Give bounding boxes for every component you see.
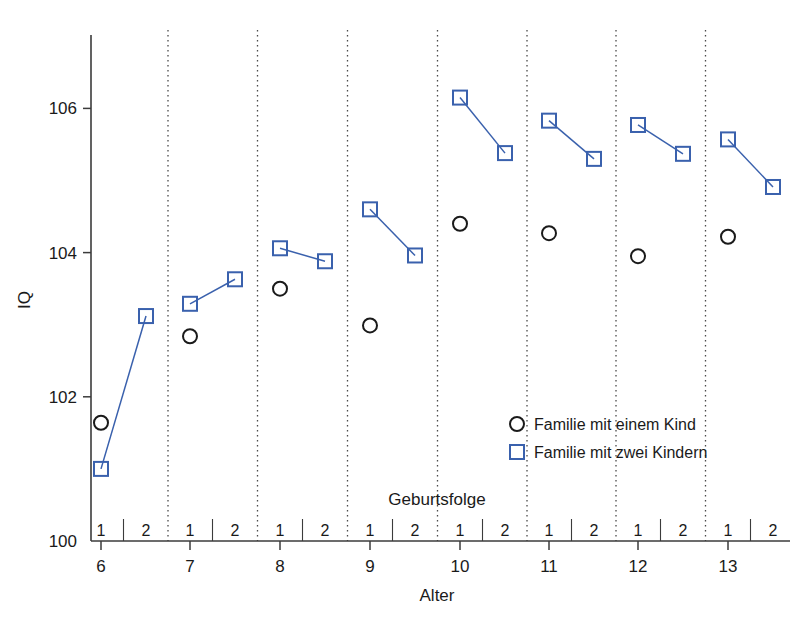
data-point-circle: [183, 329, 197, 343]
y-axis-tick-label: 100: [49, 532, 77, 551]
birth-order-label: 1: [456, 522, 465, 539]
legend-marker-square: [510, 445, 524, 459]
data-point-circle: [94, 416, 108, 430]
y-axis-tick-label: 106: [49, 99, 77, 118]
birth-order-label: 2: [321, 522, 330, 539]
data-point-circle: [542, 226, 556, 240]
birth-order-label: 1: [186, 522, 195, 539]
birth-order-label: 1: [366, 522, 375, 539]
data-point-circle: [631, 249, 645, 263]
birth-order-label: 2: [769, 522, 778, 539]
series-connector-line: [460, 98, 505, 154]
group-axis-title: Geburtsfolge: [388, 490, 485, 509]
data-point-circle: [273, 282, 287, 296]
x-axis-tick-label: 8: [275, 557, 284, 576]
x-axis-tick-label: 7: [185, 557, 194, 576]
birth-order-label: 2: [590, 522, 599, 539]
legend-label: Familie mit zwei Kindern: [534, 444, 707, 461]
birth-order-label: 1: [724, 522, 733, 539]
x-axis-tick-label: 11: [540, 557, 558, 576]
birth-order-label: 1: [97, 522, 106, 539]
birth-order-label: 1: [634, 522, 643, 539]
iq-by-age-and-birth-order-chart: 100102104106IQ61271281291210121112121213…: [0, 0, 801, 624]
x-axis-tick-label: 9: [365, 557, 374, 576]
legend-label: Familie mit einem Kind: [534, 416, 696, 433]
data-point-circle: [453, 217, 467, 231]
series-connector-line: [101, 316, 146, 469]
x-axis-tick-label: 6: [96, 557, 105, 576]
x-axis-title: Alter: [420, 586, 455, 605]
data-point-circle: [363, 318, 377, 332]
chart-page: 100102104106IQ61271281291210121112121213…: [0, 0, 801, 624]
y-axis-tick-label: 102: [49, 388, 77, 407]
y-axis-tick-label: 104: [49, 244, 77, 263]
birth-order-label: 2: [679, 522, 688, 539]
data-point-circle: [721, 230, 735, 244]
birth-order-label: 1: [545, 522, 554, 539]
x-axis-tick-label: 10: [451, 557, 470, 576]
birth-order-label: 2: [411, 522, 420, 539]
x-axis-tick-label: 13: [719, 557, 738, 576]
birth-order-label: 2: [142, 522, 151, 539]
birth-order-label: 2: [501, 522, 510, 539]
birth-order-label: 2: [231, 522, 240, 539]
x-axis-tick-label: 12: [629, 557, 648, 576]
y-axis-title: IQ: [15, 291, 34, 309]
legend-marker-circle: [510, 417, 524, 431]
birth-order-label: 1: [276, 522, 285, 539]
